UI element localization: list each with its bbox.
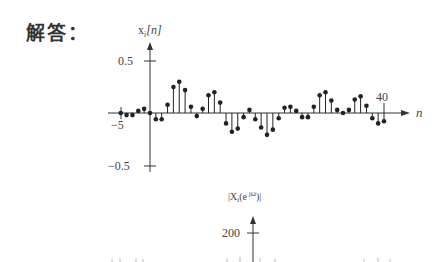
y-axis-2-arrow-icon [250, 216, 256, 224]
stem-marker [118, 111, 123, 116]
stem-plot-xi: xi[n] 0.5 −0.5 −5 40 n [108, 23, 423, 173]
x-axis-arrow-icon [401, 110, 410, 116]
stem-marker [200, 107, 205, 112]
stem-marker [370, 116, 375, 121]
stem-marker [300, 115, 305, 120]
stem-marker [347, 108, 352, 113]
xtick-label-left: −5 [111, 118, 124, 132]
stem-marker [165, 102, 170, 107]
stem-marker [253, 117, 258, 122]
xtick-label-right: 40 [376, 90, 388, 104]
stem-plot-Xi-magnitude: |Xi(e jΩ)| 200 [112, 190, 390, 262]
stem-marker [136, 109, 141, 114]
stem-marker [247, 108, 252, 113]
ytick-label-200: 200 [222, 226, 240, 240]
stems [118, 80, 386, 138]
stem-marker [382, 119, 387, 124]
stem-marker [364, 103, 369, 108]
stem-marker [294, 109, 299, 114]
stem-marker [288, 104, 293, 109]
y-axis-arrow-icon [147, 42, 153, 50]
stem-marker [276, 116, 281, 121]
stem-marker [235, 126, 240, 131]
stem-marker [206, 93, 211, 98]
stem-marker [171, 85, 176, 90]
stem-marker [259, 125, 264, 130]
stem-marker [230, 129, 235, 134]
cutoff-stems [112, 257, 390, 262]
stem-marker [224, 121, 229, 126]
stem-marker [148, 111, 153, 116]
figure: xi[n] 0.5 −0.5 −5 40 n |Xi(e jΩ)| 200 [0, 0, 439, 262]
ytick-label-bottom: −0.5 [108, 159, 130, 173]
stem-marker [154, 117, 159, 122]
stem-marker [130, 113, 135, 118]
stem-marker [282, 106, 287, 111]
stem-marker [306, 115, 311, 120]
stem-marker [329, 98, 334, 103]
stem-marker [124, 113, 129, 118]
stem-marker [142, 107, 147, 112]
stem-marker [317, 93, 322, 98]
stem-marker [212, 90, 217, 95]
stem-marker [312, 104, 317, 109]
stem-marker [195, 114, 200, 119]
stem-marker [271, 127, 276, 132]
stem-marker [183, 88, 188, 93]
ylabel-Xi: |Xi(e jΩ)| [228, 190, 261, 204]
stem-marker [177, 80, 182, 85]
xlabel-n: n [416, 105, 423, 120]
stem-marker [323, 90, 328, 95]
ylabel-xi: xi[n] [138, 23, 162, 39]
stem-marker [265, 133, 270, 138]
stem-marker [159, 117, 164, 122]
ytick-label-top: 0.5 [118, 54, 133, 68]
stem-marker [241, 115, 246, 120]
stem-marker [376, 121, 381, 126]
stem-marker [352, 97, 357, 102]
stem-marker [218, 100, 223, 105]
stem-marker [189, 104, 194, 109]
stem-marker [358, 94, 363, 99]
stem-marker [335, 108, 340, 113]
stem-marker [341, 111, 346, 116]
